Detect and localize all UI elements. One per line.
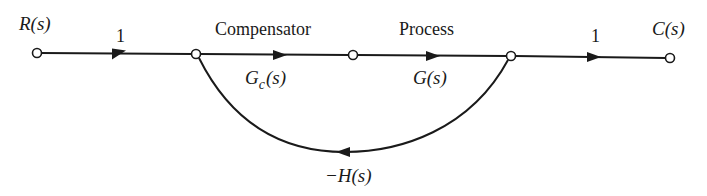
node-2 <box>349 51 358 60</box>
feedback-gain-label: −H(s) <box>325 165 372 187</box>
node-1 <box>192 50 201 59</box>
node-input <box>33 49 42 58</box>
process-caption: Process <box>399 19 454 39</box>
node-output <box>666 54 675 63</box>
gain-input-label: 1 <box>116 26 125 46</box>
input-label: R(s) <box>18 13 51 35</box>
arrow-compensator-icon <box>273 50 287 60</box>
gain-output-label: 1 <box>591 26 600 46</box>
signal-flow-graph: R(s) 1 Compensator Gc(s) Process G(s) 1 … <box>0 0 707 196</box>
compensator-caption: Compensator <box>215 19 311 39</box>
process-gain-label: G(s) <box>413 67 447 89</box>
compensator-gain-label: Gc(s) <box>245 67 286 92</box>
arrow-process-icon <box>426 51 440 61</box>
arrow-output-icon <box>587 52 601 62</box>
output-label: C(s) <box>652 18 685 40</box>
arrow-feedback-icon <box>336 147 350 157</box>
node-3 <box>507 52 516 61</box>
